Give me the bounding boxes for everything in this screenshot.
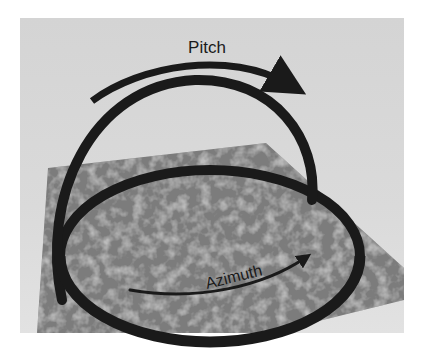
rotation-diagram: Pitch Azimuth [0,0,424,351]
pitch-label: Pitch [188,38,226,57]
